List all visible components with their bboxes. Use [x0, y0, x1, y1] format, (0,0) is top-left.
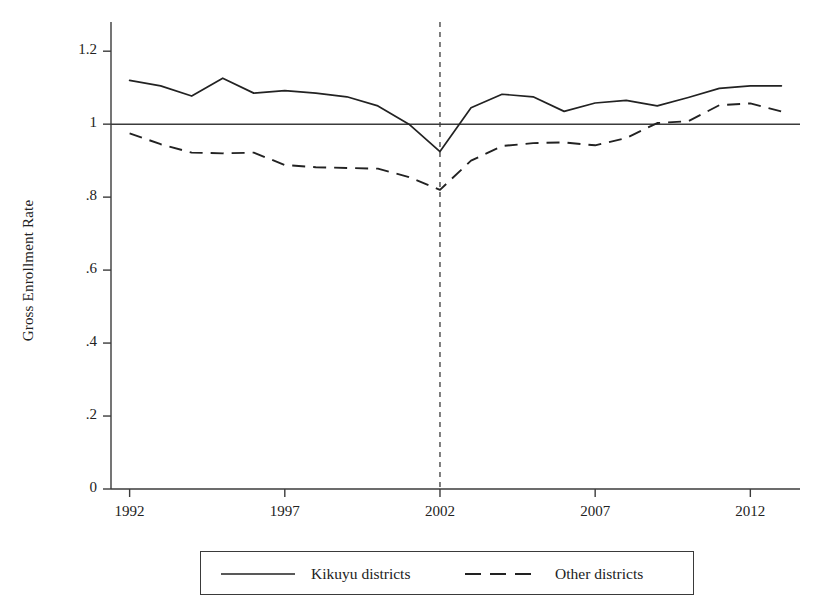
legend-entry-other-districts: Other districts [463, 552, 643, 596]
axes-group [103, 22, 800, 497]
legend-swatch-solid-line [219, 567, 297, 581]
x-axis-tick-label: 2002 [400, 503, 480, 520]
legend-swatch-dashed-line [463, 567, 541, 581]
plot-area [0, 0, 816, 612]
y-axis-tick-label: 1 [37, 114, 97, 131]
series-line-kikuyu-districts [130, 78, 782, 151]
legend-entry-kikuyu-districts: Kikuyu districts [219, 552, 410, 596]
legend-label-kikuyu-districts: Kikuyu districts [311, 565, 410, 583]
y-axis-tick-label: 0 [37, 479, 97, 496]
series-line-other-districts [130, 103, 782, 189]
y-axis-tick-label: .2 [37, 406, 97, 423]
y-axis-tick-label: .6 [37, 260, 97, 277]
chart-figure: Gross Enrollment Rate 0.2.4.6.811.2 1992… [0, 0, 816, 612]
y-axis-title: Gross Enrollment Rate [20, 151, 37, 391]
y-axis-tick-label: .8 [37, 187, 97, 204]
y-axis-tick-label: 1.2 [37, 41, 97, 58]
legend-label-other-districts: Other districts [555, 565, 643, 583]
x-axis-ticks [130, 489, 751, 497]
x-axis-tick-label: 1992 [90, 503, 170, 520]
y-axis-tick-label: .4 [37, 333, 97, 350]
x-axis-tick-label: 2012 [710, 503, 790, 520]
x-axis-tick-label: 2007 [555, 503, 635, 520]
chart-legend: Kikuyu districts Other districts [200, 551, 694, 595]
y-axis-ticks [103, 51, 111, 489]
x-axis-tick-label: 1997 [245, 503, 325, 520]
